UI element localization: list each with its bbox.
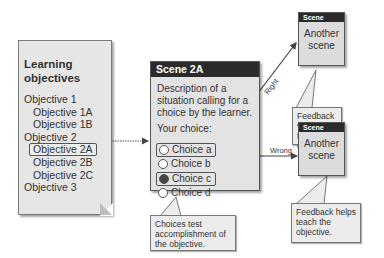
scene-2a-title: Scene 2A [151,62,259,77]
radio-icon[interactable] [159,145,169,155]
objective-item: Objective 3 [24,181,97,194]
objective-item: Objective 1A [24,106,97,119]
objective-item: Objective 2B [24,156,97,169]
choice-label: Choice c [172,173,211,185]
wrong-label: Wrong [270,146,292,155]
objective-item-highlighted: Objective 2A [29,143,97,156]
choice-d[interactable]: Choice d [158,187,210,199]
right-label: Right [262,76,280,96]
radio-icon[interactable] [158,188,168,198]
scene-wrong-window: Scene Another scene [298,122,345,176]
choice-label: Choice a [172,144,211,156]
choice-a[interactable]: Choice a [156,143,216,157]
scene-2a-window: Scene 2A Description of a situation call… [150,61,260,191]
radio-icon[interactable] [158,159,168,169]
objectives-document: Learning objectives Objective 1 Objectiv… [18,40,112,215]
objectives-list: Objective 1 Objective 1A Objective 1B Ob… [24,93,97,194]
choice-label: Choice d [171,187,210,199]
choice-prompt: Your choice: [157,123,212,134]
scene-description: Description of a situation calling for a… [157,83,257,119]
objective-item: Objective 1B [24,118,97,131]
objectives-title: Learning objectives [24,57,80,85]
title-line-2: objectives [24,71,80,85]
scene-wrong-title: Scene [299,123,344,132]
objective-item: Objective 1 [24,93,97,106]
choice-c[interactable]: Choice c [156,172,216,186]
choices-callout: Choices test accomplishment of the objec… [150,215,236,251]
title-line-1: Learning [24,57,80,71]
objective-item: Objective 2C [24,169,97,182]
wrong-feedback-callout: Feedback helps teach the objective. [291,203,361,243]
scene-wrong-body: Another scene [299,138,344,162]
objective-item: Objective 2 [24,131,97,144]
scene-right-body: Another scene [299,28,344,52]
scene-right-title: Scene [299,13,344,22]
scene-right-window: Scene Another scene [298,12,345,66]
radio-selected-icon[interactable] [159,174,169,184]
choice-label: Choice b [171,158,210,170]
choice-b[interactable]: Choice b [158,158,210,170]
